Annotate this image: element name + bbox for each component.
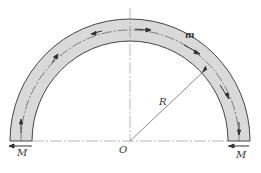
center-label: O [119, 144, 127, 155]
element-label: m [185, 30, 195, 40]
moment-label-right: M [236, 149, 246, 160]
moment-arrows [9, 144, 249, 148]
ring-diagram [0, 0, 261, 173]
radius-label: R [159, 96, 167, 107]
moment-label-left: M [17, 147, 27, 158]
